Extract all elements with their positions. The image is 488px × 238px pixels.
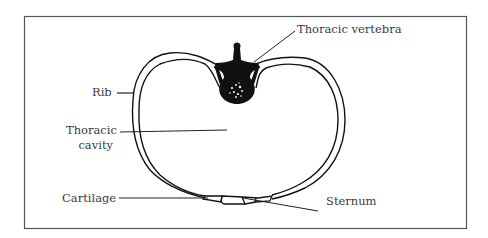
- label-cartilage: Cartilage: [62, 192, 116, 205]
- leader-thoracic-cavity: [120, 130, 227, 132]
- right-rib-inner: [256, 64, 338, 195]
- left-rib-inner: [139, 60, 220, 197]
- thoracic-cross-section-diagram: Thoracic vertebra Rib Thoracic cavity Ca…: [0, 0, 488, 238]
- thoracic-vertebra-shape: [214, 43, 260, 105]
- label-sternum: Sternum: [326, 195, 377, 208]
- right-rib-outer: [256, 57, 345, 199]
- label-rib: Rib: [92, 86, 112, 99]
- label-thoracic-cavity-line1: Thoracic: [66, 124, 113, 137]
- left-rib-outer: [132, 53, 219, 198]
- label-thoracic-cavity-line2: cavity: [66, 139, 113, 152]
- label-thoracic-vertebra: Thoracic vertebra: [297, 23, 402, 36]
- leader-sternum: [243, 198, 318, 211]
- sternum-shape: [203, 196, 272, 204]
